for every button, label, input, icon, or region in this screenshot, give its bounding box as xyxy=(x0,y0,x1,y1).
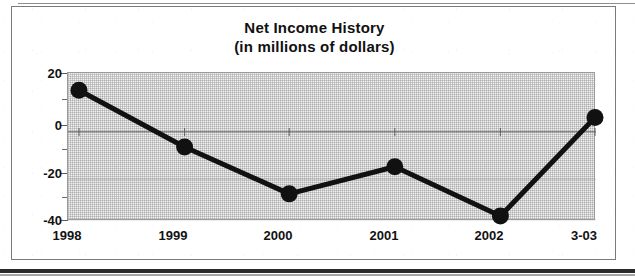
data-point-2001 xyxy=(386,158,403,175)
page-root: Net Income History (in millions of dolla… xyxy=(0,0,635,278)
data-point-3-03 xyxy=(587,109,604,126)
page-top-rule xyxy=(18,3,635,4)
x-axis-label-2001: 2001 xyxy=(349,228,419,243)
chart-figure: Net Income History (in millions of dolla… xyxy=(11,6,616,260)
x-axis-label-2002: 2002 xyxy=(454,228,524,243)
y-axis-label--40: -40 xyxy=(16,214,62,227)
x-axis-label-1998: 1998 xyxy=(32,228,102,243)
page-bottom-rule xyxy=(0,269,635,273)
y-axis-label-20: 20 xyxy=(16,67,62,80)
data-point-2002 xyxy=(492,208,509,225)
y-axis-labels: 20 0 -20 -40 xyxy=(14,7,62,261)
data-point-1999 xyxy=(176,139,193,156)
y-axis-label-0: 0 xyxy=(16,119,62,132)
data-series-markers xyxy=(71,82,604,225)
chart-title: Net Income History xyxy=(12,19,617,37)
x-axis-label-1999: 1999 xyxy=(138,228,208,243)
y-axis-label--20: -20 xyxy=(16,167,62,180)
chart-subtitle: (in millions of dollars) xyxy=(12,38,617,56)
page-bottom-rule-2 xyxy=(0,274,635,276)
plot-area xyxy=(67,72,595,220)
x-axis-labels: 1998 1999 2000 2001 2002 3-03 xyxy=(12,228,617,250)
x-axis-label-3-03: 3-03 xyxy=(549,228,619,243)
x-axis-label-2000: 2000 xyxy=(243,228,313,243)
data-series-line xyxy=(79,90,595,216)
data-point-1998 xyxy=(71,82,88,99)
data-point-2000 xyxy=(281,185,298,202)
chart-canvas xyxy=(68,73,596,221)
